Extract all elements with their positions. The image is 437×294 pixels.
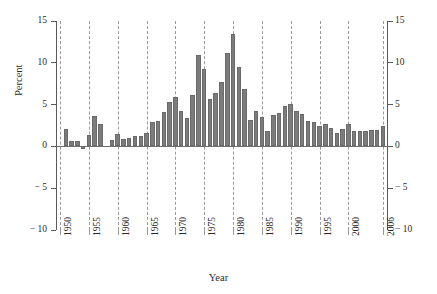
bar-series: [56, 21, 387, 230]
bar-1973: [190, 95, 194, 147]
x-tick-label-2000: 2000: [352, 217, 362, 236]
x-tick-label-1975: 1975: [208, 217, 218, 236]
x-tick-label-1990: 1990: [295, 217, 305, 236]
bar-1989: [283, 106, 287, 146]
x-tick-label-1980: 1980: [237, 217, 247, 236]
bar-1972: [185, 118, 189, 146]
x-tick-2000: [348, 230, 349, 235]
bar-1971: [179, 111, 183, 146]
bar-1977: [213, 93, 217, 147]
x-tick-label-1985: 1985: [266, 217, 276, 236]
y-tick-label-left--10: − 10: [0, 225, 47, 235]
y-tick-label-right-0: 0: [395, 141, 400, 151]
x-tick-1960: [118, 230, 119, 235]
y-tick-label-left--5: − 5: [0, 183, 47, 193]
y-tick-label-right--5: − 5: [395, 183, 407, 193]
x-tick-1995: [320, 230, 321, 235]
y-tick-label-right-5: 5: [395, 100, 400, 110]
x-axis-title: Year: [0, 272, 437, 283]
x-tick-label-2006: 2006: [387, 217, 397, 236]
bar-2006: [381, 126, 385, 147]
bar-1985: [260, 117, 264, 146]
bar-1978: [219, 82, 223, 146]
zero-baseline: [56, 146, 388, 147]
bar-1970: [173, 97, 177, 146]
bar-1957: [98, 124, 102, 147]
y-tick-right-10: [388, 62, 393, 63]
bar-1979: [225, 53, 229, 147]
x-tick-1970: [175, 230, 176, 235]
bar-1986: [265, 131, 269, 147]
bar-1995: [317, 126, 321, 147]
bar-1983: [248, 120, 252, 147]
bar-1960: [115, 134, 119, 147]
bar-1993: [306, 121, 310, 146]
bar-1982: [242, 89, 246, 147]
x-tick-label-1970: 1970: [179, 217, 189, 236]
bar-1967: [156, 121, 160, 146]
bar-1969: [167, 102, 171, 146]
x-tick-label-1955: 1955: [93, 217, 103, 236]
x-tick-1955: [89, 230, 90, 235]
bar-1966: [150, 122, 154, 146]
bar-2004: [369, 130, 373, 147]
x-tick-label-1965: 1965: [151, 217, 161, 236]
bar-2000: [346, 124, 350, 147]
bar-1981: [237, 67, 241, 146]
bar-1996: [323, 124, 327, 147]
y-tick-label-left-5: 5: [0, 100, 47, 110]
x-tick-label-1950: 1950: [64, 217, 74, 236]
chart-figure: Percent Year 151510105500− 5− 5− 10− 10 …: [0, 0, 437, 294]
bar-1997: [329, 128, 333, 146]
y-axis-title: Percent: [13, 65, 24, 97]
bar-1990: [288, 104, 292, 147]
y-tick-right-15: [388, 21, 393, 22]
bar-1984: [254, 111, 258, 146]
y-tick-label-right-10: 10: [395, 58, 405, 68]
x-tick-1985: [262, 230, 263, 235]
bar-1963: [133, 136, 137, 146]
y-tick-label-left-15: 15: [0, 16, 47, 26]
y-tick-right-0: [388, 146, 393, 147]
bar-1964: [139, 136, 143, 147]
bar-2003: [363, 131, 367, 147]
y-tick-label-left-10: 10: [0, 58, 47, 68]
x-tick-label-1960: 1960: [122, 217, 132, 236]
bar-2002: [358, 131, 362, 147]
y-tick-label-left-0: 0: [0, 141, 47, 151]
bar-2001: [352, 131, 356, 147]
bar-1975: [202, 69, 206, 146]
x-tick-1990: [291, 230, 292, 235]
bar-1956: [92, 116, 96, 146]
bar-2005: [375, 130, 379, 147]
y-axis-right-spine: [387, 21, 388, 230]
y-tick-right-5: [388, 104, 393, 105]
bar-1951: [64, 129, 68, 147]
bar-1994: [312, 122, 316, 146]
x-tick-1980: [233, 230, 234, 235]
bar-1988: [277, 113, 281, 146]
bar-1955: [87, 135, 91, 147]
y-tick-label-right-15: 15: [395, 16, 405, 26]
bar-1998: [335, 133, 339, 146]
x-tick-1950: [60, 230, 61, 235]
x-tick-label-1995: 1995: [324, 217, 334, 236]
y-tick-right--5: [388, 188, 393, 189]
bar-1992: [300, 114, 304, 147]
bar-1999: [340, 129, 344, 147]
bar-1974: [196, 55, 200, 146]
bar-1991: [294, 111, 298, 146]
bar-1987: [271, 115, 275, 147]
bar-1976: [208, 99, 212, 147]
x-tick-1965: [147, 230, 148, 235]
y-tick-label-right--10: − 10: [395, 225, 412, 235]
x-tick-1975: [204, 230, 205, 235]
bar-1965: [144, 133, 148, 146]
x-tick-2006: [383, 230, 384, 235]
bar-1980: [231, 34, 235, 147]
bar-1968: [162, 112, 166, 146]
